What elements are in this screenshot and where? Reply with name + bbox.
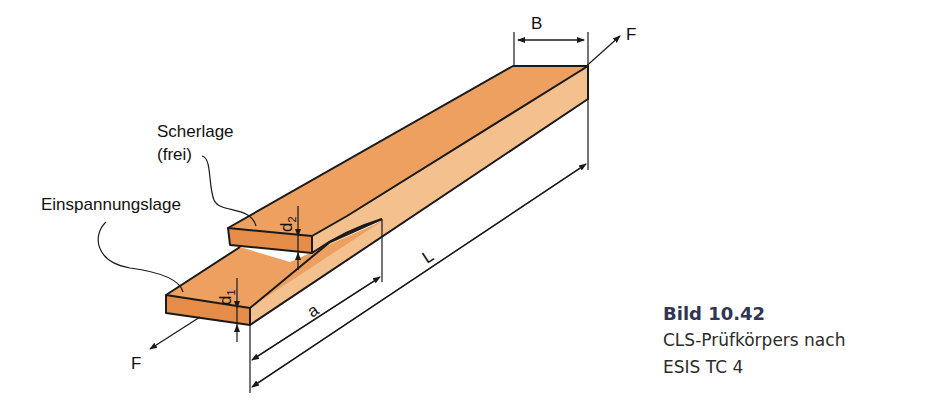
caption-line-1: CLS-Prüfkörpers nach: [663, 327, 845, 354]
force-arrow-bottom: [150, 317, 200, 349]
force-label-bottom: F: [131, 354, 141, 373]
caption-line-2: ESIS TC 4: [663, 354, 845, 381]
shear-layer-note: (frei): [157, 145, 192, 164]
figure: B F F a L d2: [0, 0, 936, 415]
width-label: B: [531, 14, 542, 33]
total-length-label: L: [419, 246, 437, 267]
dimension-b: [514, 32, 588, 66]
shear-layer-label: Scherlage: [157, 122, 234, 141]
figure-caption: Bild 10.42 CLS-Prüfkörpers nach ESIS TC …: [663, 300, 845, 381]
clamp-layer-leader: [98, 222, 183, 292]
caption-title: Bild 10.42: [663, 300, 845, 327]
force-label-top: F: [626, 25, 636, 44]
clamp-layer-label: Einspannungslage: [41, 195, 181, 214]
overlap-length-label: a: [304, 300, 323, 321]
shear-layer-leader: [202, 156, 256, 226]
